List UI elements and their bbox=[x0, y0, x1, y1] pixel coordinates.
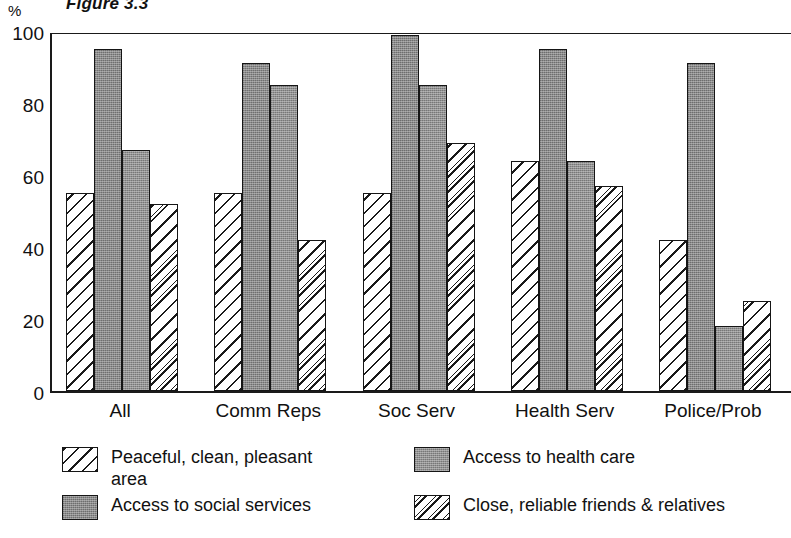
legend-item-0: Peaceful, clean, pleasant area bbox=[62, 446, 392, 490]
bar bbox=[270, 85, 298, 391]
y-axis-unit-label: % bbox=[8, 3, 21, 18]
bar bbox=[391, 35, 419, 391]
bar bbox=[214, 193, 242, 391]
legend-label-0: Peaceful, clean, pleasant area bbox=[111, 446, 312, 490]
x-tick-label-health-serv: Health Serv bbox=[515, 400, 614, 422]
bars-container bbox=[52, 34, 791, 391]
y-axis-tick-labels: 020406080100 bbox=[0, 33, 44, 393]
legend-swatch-close-reliable-friends-relatives-icon bbox=[414, 495, 450, 520]
bar bbox=[122, 150, 150, 391]
plot-area bbox=[50, 33, 791, 393]
bar-group-health-serv bbox=[511, 34, 623, 391]
bar bbox=[66, 193, 94, 391]
y-tick-label-0: 0 bbox=[0, 384, 44, 403]
y-tick-label-40: 40 bbox=[0, 240, 44, 259]
x-tick-label-soc-serv: Soc Serv bbox=[378, 400, 455, 422]
bar bbox=[567, 161, 595, 391]
bar bbox=[447, 143, 475, 391]
x-tick-label-comm-reps: Comm Reps bbox=[216, 400, 322, 422]
legend-item-2: Access to health care bbox=[414, 446, 784, 472]
bar bbox=[659, 240, 687, 391]
bar-group-soc-serv bbox=[363, 34, 475, 391]
legend-item-3: Close, reliable friends & relatives bbox=[414, 494, 791, 520]
legend-swatch-access-to-social-services-icon bbox=[62, 495, 98, 520]
figure-title: Figure 3.3 bbox=[66, 0, 148, 14]
bar bbox=[242, 63, 270, 391]
x-tick-label-all: All bbox=[110, 400, 131, 422]
legend-swatch-access-to-health-care-icon bbox=[414, 447, 450, 472]
y-tick-label-20: 20 bbox=[0, 312, 44, 331]
bar bbox=[511, 161, 539, 391]
bar bbox=[150, 204, 178, 391]
y-tick-label-60: 60 bbox=[0, 168, 44, 187]
x-axis-tick-labels: AllComm RepsSoc ServHealth ServPolice/Pr… bbox=[50, 400, 791, 426]
legend-label-1: Access to social services bbox=[111, 494, 311, 516]
bar-group-all bbox=[66, 34, 178, 391]
bar-group-comm-reps bbox=[214, 34, 326, 391]
legend-item-1: Access to social services bbox=[62, 494, 392, 520]
bar bbox=[539, 49, 567, 391]
x-tick-label-police-prob: Police/Prob bbox=[664, 400, 761, 422]
bar bbox=[715, 326, 743, 391]
bar bbox=[743, 301, 771, 391]
bar bbox=[94, 49, 122, 391]
y-tick-label-100: 100 bbox=[0, 24, 44, 43]
bar bbox=[687, 63, 715, 391]
bar bbox=[419, 85, 447, 391]
legend-swatch-peaceful-clean-pleasant-area-icon bbox=[62, 447, 98, 472]
bar bbox=[298, 240, 326, 391]
chart-legend: Peaceful, clean, pleasant area Access to… bbox=[62, 446, 791, 534]
bar-group-police-prob bbox=[659, 34, 771, 391]
y-tick-label-80: 80 bbox=[0, 96, 44, 115]
legend-label-3: Close, reliable friends & relatives bbox=[463, 494, 725, 516]
legend-label-2: Access to health care bbox=[463, 446, 635, 468]
bar bbox=[363, 193, 391, 391]
chart-page: Figure 3.3 % 020406080100 AllComm RepsSo… bbox=[0, 0, 791, 538]
bar bbox=[595, 186, 623, 391]
